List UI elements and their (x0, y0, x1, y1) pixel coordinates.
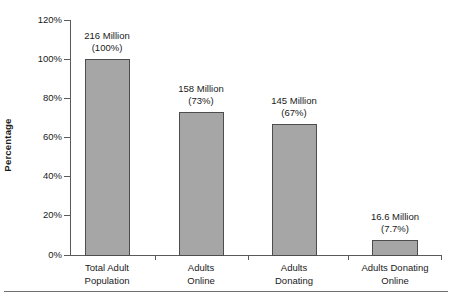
bar-value-label-total-adult-population: 216 Million (100%) (57, 30, 157, 54)
bar-chart-figure: Percentage 120% 100% 80% 60% 40% 20% 0% (0, 0, 452, 300)
bar-value-percent: (100%) (57, 42, 157, 54)
bar-value-count: 16.6 Million (345, 211, 445, 223)
category-label-line: Donating (244, 274, 344, 287)
category-label-line: Total Adult (57, 261, 157, 274)
bar-adults-online[interactable] (179, 112, 224, 256)
bar-value-count: 216 Million (57, 30, 157, 42)
category-label-line: Online (340, 274, 450, 287)
x-category-label-adults-donating: Adults Donating (244, 261, 344, 287)
y-tick-label: 0% (4, 250, 62, 260)
category-label-line: Adults (151, 261, 251, 274)
category-label-line: Adults (244, 261, 344, 274)
x-tick-mark (155, 255, 156, 260)
y-tick-label: 40% (4, 171, 62, 181)
y-tick-label: 100% (4, 54, 62, 64)
y-tick-label: 80% (4, 93, 62, 103)
x-category-label-total-adult-population: Total Adult Population (57, 261, 157, 287)
x-tick-mark (348, 255, 349, 260)
footer-divider (4, 291, 448, 292)
y-axis-line (70, 20, 71, 256)
bar-value-percent: (7.7%) (345, 223, 445, 235)
bar-adults-donating-online[interactable] (372, 240, 418, 256)
y-tick-label: 120% (4, 15, 62, 25)
y-tick-label: 60% (4, 132, 62, 142)
category-label-line: Online (151, 274, 251, 287)
bar-value-count: 145 Million (244, 95, 344, 107)
bar-adults-donating[interactable] (272, 124, 317, 256)
bar-value-percent: (73%) (151, 95, 251, 107)
category-label-line: Population (57, 274, 157, 287)
bar-value-label-adults-donating: 145 Million (67%) (244, 95, 344, 119)
bar-value-label-adults-online: 158 Million (73%) (151, 83, 251, 107)
category-label-line: Adults Donating (340, 261, 450, 274)
y-tick-label: 20% (4, 210, 62, 220)
bar-value-percent: (67%) (244, 107, 344, 119)
x-category-label-adults-online: Adults Online (151, 261, 251, 287)
x-tick-mark (248, 255, 249, 260)
bar-total-adult-population[interactable] (85, 59, 130, 256)
x-tick-mark (441, 255, 442, 260)
bar-value-count: 158 Million (151, 83, 251, 95)
x-category-label-adults-donating-online: Adults Donating Online (340, 261, 450, 287)
bar-value-label-adults-donating-online: 16.6 Million (7.7%) (345, 211, 445, 235)
